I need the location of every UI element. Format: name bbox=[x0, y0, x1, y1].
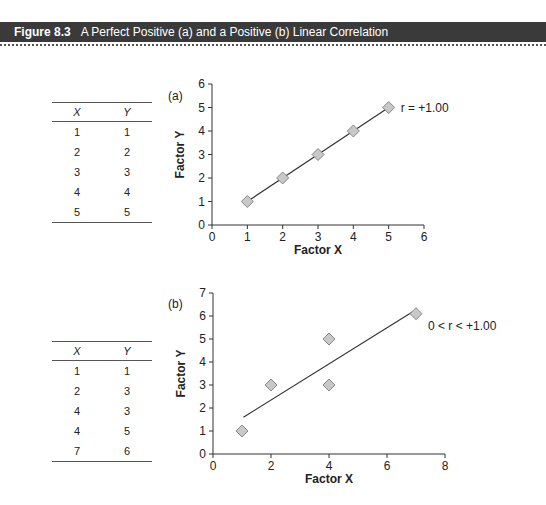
data-point bbox=[277, 172, 289, 184]
svg-text:1: 1 bbox=[199, 424, 206, 438]
svg-text:4: 4 bbox=[199, 355, 206, 369]
svg-text:2: 2 bbox=[279, 230, 286, 244]
svg-text:2: 2 bbox=[198, 171, 205, 185]
svg-text:4: 4 bbox=[198, 124, 205, 138]
panel-label: (a) bbox=[168, 89, 183, 103]
chart-a: (a)01234560123456Factor XFactor Yr = +1.… bbox=[168, 77, 449, 257]
fit-line bbox=[243, 311, 413, 417]
svg-text:8: 8 bbox=[442, 459, 449, 473]
svg-text:4: 4 bbox=[350, 230, 357, 244]
data-point bbox=[323, 333, 335, 345]
data-point bbox=[410, 308, 422, 320]
x-axis-label: Factor X bbox=[294, 243, 342, 257]
svg-text:0: 0 bbox=[209, 230, 216, 244]
svg-text:4: 4 bbox=[326, 459, 333, 473]
chart-b: (b)0246801234567Factor XFactor Y0 < r < … bbox=[168, 286, 497, 486]
svg-text:5: 5 bbox=[199, 332, 206, 346]
svg-text:5: 5 bbox=[198, 101, 205, 115]
panel-label: (b) bbox=[168, 297, 183, 311]
correlation-annotation: 0 < r < +1.00 bbox=[428, 319, 497, 333]
data-point bbox=[241, 196, 253, 208]
svg-text:2: 2 bbox=[268, 459, 275, 473]
y-axis-label: Factor Y bbox=[173, 131, 187, 179]
svg-text:7: 7 bbox=[199, 286, 206, 300]
svg-text:0: 0 bbox=[210, 459, 217, 473]
svg-text:0: 0 bbox=[199, 447, 206, 461]
correlation-annotation: r = +1.00 bbox=[401, 101, 449, 115]
svg-text:6: 6 bbox=[384, 459, 391, 473]
svg-text:3: 3 bbox=[315, 230, 322, 244]
svg-text:1: 1 bbox=[198, 195, 205, 209]
svg-text:5: 5 bbox=[385, 230, 392, 244]
data-point bbox=[347, 125, 359, 137]
data-point bbox=[323, 379, 335, 391]
data-point bbox=[265, 379, 277, 391]
svg-text:6: 6 bbox=[199, 309, 206, 323]
data-point bbox=[236, 425, 248, 437]
svg-text:3: 3 bbox=[199, 378, 206, 392]
svg-text:6: 6 bbox=[198, 77, 205, 91]
svg-text:3: 3 bbox=[198, 148, 205, 162]
data-point bbox=[383, 102, 395, 114]
scatter-charts: (a)01234560123456Factor XFactor Yr = +1.… bbox=[0, 0, 546, 505]
svg-text:0: 0 bbox=[198, 218, 205, 232]
x-axis-label: Factor X bbox=[305, 472, 353, 486]
y-axis-label: Factor Y bbox=[174, 350, 188, 398]
svg-text:2: 2 bbox=[199, 401, 206, 415]
data-point bbox=[312, 149, 324, 161]
svg-text:6: 6 bbox=[421, 230, 428, 244]
svg-text:1: 1 bbox=[244, 230, 251, 244]
